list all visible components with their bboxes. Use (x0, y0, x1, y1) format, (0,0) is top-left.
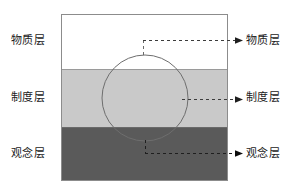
layer-band-material (61, 14, 228, 69)
connector-arrowhead-concept (235, 150, 243, 157)
layer-band-concept (61, 127, 228, 181)
label-left-institution: 制度层 (11, 91, 45, 104)
label-right-concept: 观念层 (246, 147, 280, 160)
connector-arrowhead-material (235, 37, 243, 44)
label-left-concept: 观念层 (11, 147, 45, 160)
layer-band-institution (61, 69, 228, 127)
label-left-material: 物质层 (11, 34, 45, 47)
label-right-material: 物质层 (246, 34, 280, 47)
diagram-canvas: 物质层 制度层 观念层 物质层 制度层 观念层 (0, 0, 296, 192)
connector-arrowhead-institution (235, 96, 243, 103)
layer-bands (61, 14, 228, 181)
label-right-institution: 制度层 (246, 91, 280, 104)
